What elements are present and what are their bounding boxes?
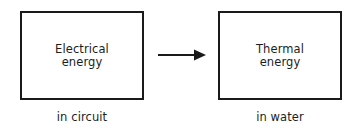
source-caption: in circuit xyxy=(20,110,144,124)
target-energy-label: Thermal energy xyxy=(256,43,304,69)
energy-transfer-diagram: Electrical energy Thermal energy in circ… xyxy=(0,0,355,133)
source-energy-label: Electrical energy xyxy=(55,43,109,69)
target-energy-box: Thermal energy xyxy=(218,11,342,100)
target-caption: in water xyxy=(218,110,342,124)
source-energy-box: Electrical energy xyxy=(20,11,144,100)
right-arrow-icon xyxy=(156,46,208,64)
